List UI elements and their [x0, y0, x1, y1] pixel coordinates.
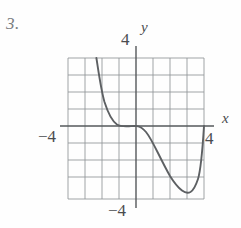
- worksheet-page: 3.: [0, 0, 241, 228]
- y-axis-tick-label-negative-4: −4: [108, 202, 126, 219]
- graph-plot: y x 4 −4 4 −4: [0, 0, 241, 228]
- x-axis-tick-label-4: 4: [205, 130, 214, 147]
- x-axis-label: x: [222, 111, 229, 126]
- y-axis-label: y: [141, 20, 148, 35]
- x-axis-tick-label-negative-4: −4: [38, 128, 56, 145]
- y-axis-tick-label-4: 4: [121, 31, 130, 48]
